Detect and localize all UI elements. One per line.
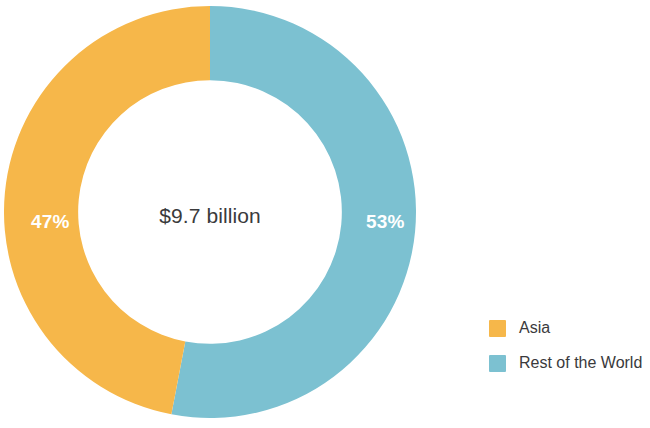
legend-item-asia[interactable]: Asia bbox=[489, 318, 649, 338]
legend-label-asia: Asia bbox=[519, 320, 550, 336]
chart-legend: Asia Rest of the World bbox=[489, 318, 649, 388]
donut-chart-figure: 47% 53% $9.7 billion Asia Rest of the Wo… bbox=[0, 0, 650, 428]
donut-center-total: $9.7 billion bbox=[0, 205, 420, 226]
legend-swatch-asia bbox=[489, 320, 506, 337]
legend-item-rest-of-world[interactable]: Rest of the World bbox=[489, 353, 649, 373]
legend-swatch-rest-of-world bbox=[489, 355, 506, 372]
legend-label-rest-of-world: Rest of the World bbox=[519, 355, 642, 371]
